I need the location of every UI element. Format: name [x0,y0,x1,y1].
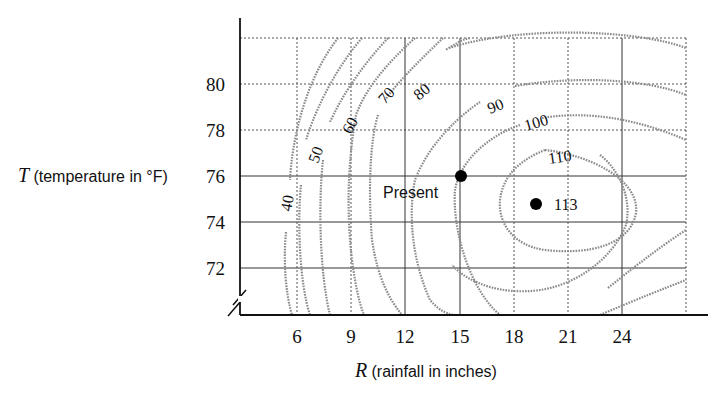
contour-label-60: 60 [339,114,362,136]
y-axis-description: (temperature in °F) [33,168,167,185]
x-axis-description: (rainfall in inches) [371,363,496,380]
present-point-label: Present [383,184,439,201]
x-tick-21: 21 [559,326,578,347]
x-tick-24: 24 [613,326,633,347]
contour-label-70: 70 [375,84,398,107]
y-tick-76: 76 [206,166,225,187]
max-point-marker [530,198,542,210]
x-axis-title: R (rainfall in inches) [355,359,497,382]
y-tick-72: 72 [206,258,225,279]
contour-label-110: 110 [547,147,573,167]
y-axis-variable: T [18,164,29,186]
contour-90 [412,33,686,315]
contour-label-40: 40 [277,194,297,213]
x-tick-15: 15 [451,326,470,347]
axis-break-gap [238,296,242,302]
x-tick-18: 18 [505,326,524,347]
present-point-marker [455,170,467,182]
x-axis-variable: R [355,359,367,381]
y-tick-80: 80 [206,74,225,95]
axes [228,18,708,316]
contour-label-50: 50 [305,144,326,165]
y-tick-74: 74 [206,212,226,233]
x-tick-6: 6 [292,326,302,347]
x-tick-9: 9 [346,326,356,347]
y-axis-title: T (temperature in °F) [18,164,168,187]
max-point-label: 113 [554,196,577,213]
contour-label-90: 90 [485,95,506,117]
contour-lines [285,33,686,315]
contour-chart: 40 50 60 70 80 90 100 110 72 74 76 78 80… [0,0,726,408]
contour-lower-right-1 [600,280,686,315]
x-tick-12: 12 [396,326,415,347]
y-tick-78: 78 [206,120,225,141]
contour-label-80: 80 [410,80,433,103]
